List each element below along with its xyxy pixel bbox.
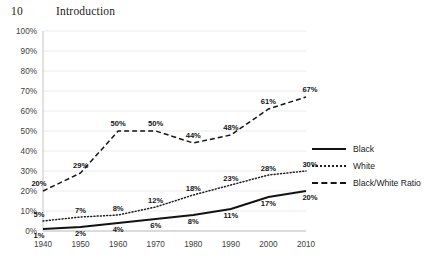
data-point-label: 12%	[148, 196, 163, 205]
legend-line-swatch-dotted-icon	[312, 161, 346, 171]
x-tick-label: 1940	[34, 240, 53, 249]
x-tick-label: 1980	[184, 240, 203, 249]
data-point-label: 8%	[188, 217, 199, 226]
legend-line-swatch-dashed-icon	[312, 178, 346, 188]
page-number: 10	[11, 5, 23, 17]
data-point-label: 4%	[113, 225, 124, 234]
data-point-label: 20%	[31, 179, 46, 188]
x-tick-label: 1960	[109, 240, 128, 249]
y-tick-label: 60%	[21, 107, 37, 116]
y-tick-label: 100%	[16, 27, 37, 36]
data-point-label: 23%	[223, 174, 238, 183]
y-tick-label: 30%	[21, 167, 37, 176]
data-point-label: 7%	[75, 206, 86, 215]
data-point-label: 8%	[113, 204, 124, 213]
data-point-label: 67%	[302, 85, 317, 94]
legend-label-ratio: Black/White Ratio	[353, 178, 421, 188]
data-point-label: 61%	[261, 97, 276, 106]
y-tick-label: 90%	[21, 47, 37, 56]
chart-legend: Black White Black/White Ratio	[312, 140, 432, 191]
data-point-label: 5%	[34, 210, 45, 219]
y-tick-label: 80%	[21, 67, 37, 76]
x-tick-label: 1970	[147, 240, 166, 249]
y-tick-label: 70%	[21, 87, 37, 96]
y-axis-tick-labels: 0%10%20%30%40%50%60%70%80%90%100%	[16, 27, 37, 236]
legend-item-white: White	[312, 157, 432, 174]
data-point-label: 50%	[148, 119, 163, 128]
x-tick-label: 1990	[222, 240, 241, 249]
legend-line-swatch-solid-icon	[312, 144, 346, 154]
y-tick-label: 50%	[21, 127, 37, 136]
x-tick-label: 2000	[259, 240, 278, 249]
data-point-label: 2%	[75, 229, 86, 238]
y-tick-label: 40%	[21, 147, 37, 156]
y-tick-label: 20%	[21, 187, 37, 196]
legend-label-white: White	[353, 161, 375, 171]
data-point-label: 48%	[223, 123, 238, 132]
data-point-label: 17%	[261, 199, 276, 208]
x-tick-label: 2010	[297, 240, 316, 249]
running-head: Introduction	[56, 5, 115, 17]
legend-item-black: Black	[312, 140, 432, 157]
legend-label-black: Black	[353, 144, 374, 154]
data-point-label: 50%	[111, 119, 126, 128]
data-point-label: 28%	[261, 164, 276, 173]
data-point-label: 20%	[302, 193, 317, 202]
page-header: 10 Introduction	[0, 2, 436, 24]
data-point-label: 29%	[73, 161, 88, 170]
data-point-label: 11%	[223, 211, 238, 220]
data-point-label: 6%	[150, 221, 161, 230]
x-axis-tick-labels: 19401950196019701980199020002010	[34, 240, 316, 249]
data-point-label: 18%	[186, 184, 201, 193]
data-point-label: 1%	[34, 231, 45, 240]
legend-item-ratio: Black/White Ratio	[312, 174, 432, 191]
x-tick-label: 1950	[71, 240, 90, 249]
data-point-label: 44%	[186, 131, 201, 140]
